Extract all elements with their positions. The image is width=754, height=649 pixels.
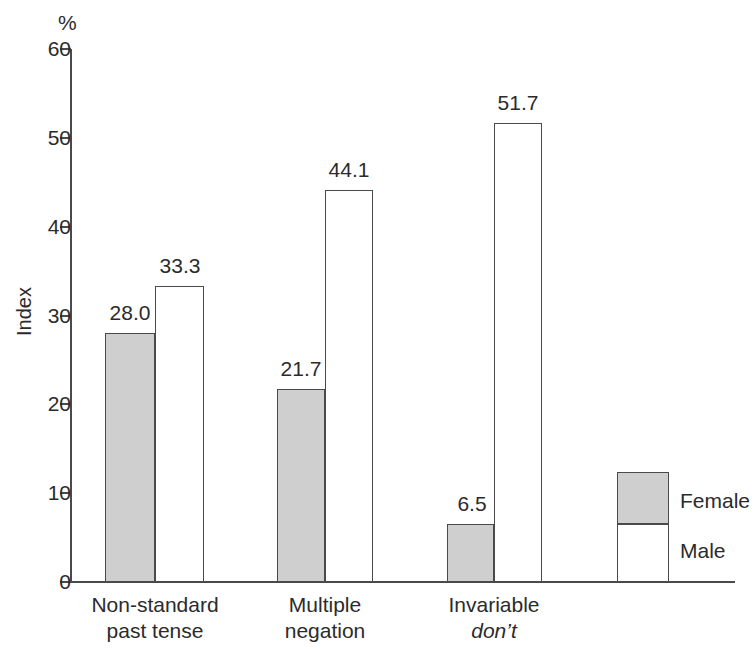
y-tick-label-50: 50 — [27, 127, 71, 148]
bar-female-invariable-dont — [447, 524, 494, 582]
bar-value-male-0: 33.3 — [138, 255, 222, 276]
y-tick-label-30: 30 — [27, 305, 71, 326]
percent-unit-label: % — [58, 12, 77, 33]
bar-chart: % Index 0 10 20 30 40 50 60 28.0 33.3 No… — [0, 0, 754, 649]
bar-male-multiple-negation — [325, 190, 373, 582]
y-tick-label-20: 20 — [27, 393, 71, 414]
bar-value-male-1: 44.1 — [307, 159, 391, 180]
x-category-label-2-line2: don’t — [383, 618, 605, 644]
bar-female-non-standard-past-tense — [105, 333, 155, 582]
legend-swatch-female — [617, 472, 669, 524]
y-tick-label-10: 10 — [27, 482, 71, 503]
bar-value-male-2: 51.7 — [476, 92, 560, 113]
y-tick-label-60: 60 — [27, 38, 71, 59]
bar-male-non-standard-past-tense — [155, 286, 204, 582]
legend-swatch-male — [617, 524, 669, 582]
bar-male-invariable-dont — [494, 123, 542, 582]
y-tick-label-40: 40 — [27, 216, 71, 237]
legend-label-male: Male — [680, 540, 726, 561]
bar-female-multiple-negation — [277, 389, 325, 582]
y-tick-label-0: 0 — [27, 571, 71, 592]
x-category-label-2-line1: Invariable — [383, 592, 605, 618]
legend-label-female: Female — [680, 490, 750, 511]
x-category-label-2: Invariable don’t — [383, 592, 605, 645]
